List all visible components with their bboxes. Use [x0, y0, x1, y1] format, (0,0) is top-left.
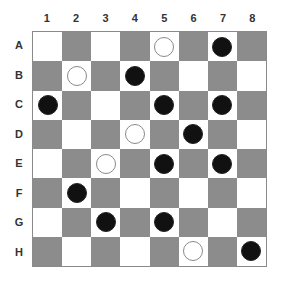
board-square-F1[interactable] — [33, 178, 62, 207]
row-labels: ABCDEFGH — [12, 31, 26, 267]
board-square-B3[interactable] — [91, 61, 120, 90]
board-square-H7[interactable] — [208, 237, 237, 266]
board-square-H3[interactable] — [91, 237, 120, 266]
board-square-C7[interactable] — [208, 91, 237, 120]
board-square-C8[interactable] — [237, 91, 266, 120]
board-square-B2[interactable] — [62, 61, 91, 90]
board-square-F8[interactable] — [237, 178, 266, 207]
row-label: A — [12, 31, 26, 61]
board-square-A1[interactable] — [33, 32, 62, 61]
board-square-D4[interactable] — [120, 120, 149, 149]
board-square-G7[interactable] — [208, 208, 237, 237]
board-square-F7[interactable] — [208, 178, 237, 207]
board-square-B7[interactable] — [208, 61, 237, 90]
board-square-C6[interactable] — [179, 91, 208, 120]
column-label: 8 — [238, 12, 267, 26]
board-square-F3[interactable] — [91, 178, 120, 207]
board-square-G3[interactable] — [91, 208, 120, 237]
board-square-B4[interactable] — [120, 61, 149, 90]
column-labels: 12345678 — [32, 12, 267, 26]
row-label: F — [12, 179, 26, 209]
board-square-D8[interactable] — [237, 120, 266, 149]
board-square-H2[interactable] — [62, 237, 91, 266]
board-square-B8[interactable] — [237, 61, 266, 90]
black-piece-icon[interactable] — [125, 66, 145, 86]
white-piece-icon[interactable] — [67, 66, 87, 86]
board-square-H4[interactable] — [120, 237, 149, 266]
column-label: 4 — [120, 12, 149, 26]
board-square-G6[interactable] — [179, 208, 208, 237]
game-board — [32, 31, 267, 267]
board-square-D1[interactable] — [33, 120, 62, 149]
board-square-B6[interactable] — [179, 61, 208, 90]
board-square-H5[interactable] — [150, 237, 179, 266]
board-square-F5[interactable] — [150, 178, 179, 207]
board-square-H6[interactable] — [179, 237, 208, 266]
white-piece-icon[interactable] — [154, 37, 174, 57]
row-label: G — [12, 208, 26, 238]
board-square-C5[interactable] — [150, 91, 179, 120]
board-square-A5[interactable] — [150, 32, 179, 61]
board-square-D2[interactable] — [62, 120, 91, 149]
black-piece-icon[interactable] — [183, 124, 203, 144]
board-square-G5[interactable] — [150, 208, 179, 237]
column-label: 5 — [150, 12, 179, 26]
board-square-H1[interactable] — [33, 237, 62, 266]
board-square-F2[interactable] — [62, 178, 91, 207]
black-piece-icon[interactable] — [96, 212, 116, 232]
black-piece-icon[interactable] — [241, 241, 261, 261]
board-square-H8[interactable] — [237, 237, 266, 266]
board-square-A4[interactable] — [120, 32, 149, 61]
column-label: 3 — [91, 12, 120, 26]
board-square-D5[interactable] — [150, 120, 179, 149]
board-square-E1[interactable] — [33, 149, 62, 178]
board-square-E7[interactable] — [208, 149, 237, 178]
board-square-A2[interactable] — [62, 32, 91, 61]
row-label: C — [12, 90, 26, 120]
column-label: 7 — [208, 12, 237, 26]
column-label: 2 — [61, 12, 90, 26]
white-piece-icon[interactable] — [183, 241, 203, 261]
black-piece-icon[interactable] — [38, 95, 58, 115]
column-label: 1 — [32, 12, 61, 26]
board-square-G2[interactable] — [62, 208, 91, 237]
board-square-E6[interactable] — [179, 149, 208, 178]
board-square-G4[interactable] — [120, 208, 149, 237]
black-piece-icon[interactable] — [154, 95, 174, 115]
board-square-A8[interactable] — [237, 32, 266, 61]
white-piece-icon[interactable] — [125, 124, 145, 144]
board-square-B1[interactable] — [33, 61, 62, 90]
column-label: 6 — [179, 12, 208, 26]
board-square-E3[interactable] — [91, 149, 120, 178]
black-piece-icon[interactable] — [67, 183, 87, 203]
board-square-F4[interactable] — [120, 178, 149, 207]
board-square-G8[interactable] — [237, 208, 266, 237]
board-square-C1[interactable] — [33, 91, 62, 120]
board-square-E4[interactable] — [120, 149, 149, 178]
board-square-D6[interactable] — [179, 120, 208, 149]
row-label: B — [12, 61, 26, 91]
black-piece-icon[interactable] — [212, 95, 232, 115]
board-square-G1[interactable] — [33, 208, 62, 237]
board-square-C4[interactable] — [120, 91, 149, 120]
row-label: H — [12, 238, 26, 268]
board-square-E5[interactable] — [150, 149, 179, 178]
board-square-C2[interactable] — [62, 91, 91, 120]
board-square-F6[interactable] — [179, 178, 208, 207]
black-piece-icon[interactable] — [154, 212, 174, 232]
black-piece-icon[interactable] — [212, 154, 232, 174]
board-square-B5[interactable] — [150, 61, 179, 90]
board-square-E8[interactable] — [237, 149, 266, 178]
row-label: E — [12, 149, 26, 179]
black-piece-icon[interactable] — [212, 37, 232, 57]
board-square-D3[interactable] — [91, 120, 120, 149]
board-square-C3[interactable] — [91, 91, 120, 120]
row-label: D — [12, 120, 26, 150]
board-square-A6[interactable] — [179, 32, 208, 61]
board-square-D7[interactable] — [208, 120, 237, 149]
board-square-E2[interactable] — [62, 149, 91, 178]
black-piece-icon[interactable] — [154, 154, 174, 174]
white-piece-icon[interactable] — [96, 154, 116, 174]
board-square-A7[interactable] — [208, 32, 237, 61]
board-square-A3[interactable] — [91, 32, 120, 61]
